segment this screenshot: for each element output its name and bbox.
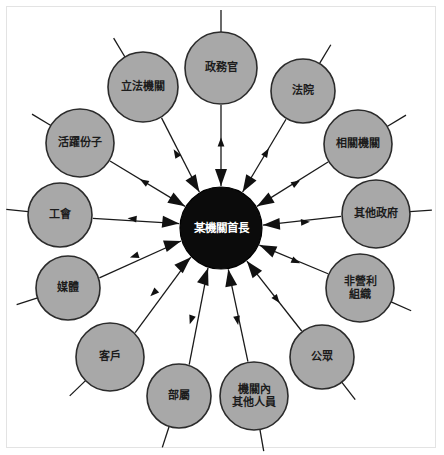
stakeholder-node-n8[interactable]: 部屬 [147, 364, 211, 428]
stakeholder-node-n12[interactable]: 活躍份子 [46, 109, 114, 177]
arrowhead-outward-n12 [140, 179, 149, 187]
outward-stub-n11 [6, 209, 28, 211]
outward-stub-n2 [319, 45, 330, 64]
stakeholder-node-n6[interactable]: 公眾 [290, 325, 354, 389]
node-label-n4: 其他政府 [354, 206, 398, 220]
node-label-n7: 其他人員 [232, 395, 276, 409]
outward-stub-n7 [260, 429, 264, 451]
arrowhead-inward-n1 [215, 169, 227, 186]
node-label-n6: 公眾 [311, 350, 333, 363]
node-label-n11: 工會 [49, 207, 72, 221]
arrowhead-outward-n2 [261, 148, 269, 157]
arrowhead-inward-n7 [225, 269, 237, 287]
center-node-label-line: 某機關首長 [193, 221, 250, 235]
node-label-n7: 機關內 [238, 382, 271, 396]
outward-stub-n12 [32, 114, 51, 125]
outward-stub-n5 [391, 302, 411, 311]
arrowhead-outward-n1 [218, 137, 225, 146]
outward-stub-n6 [342, 382, 356, 399]
arrowhead-inward-n2 [243, 174, 257, 192]
stakeholder-node-n2[interactable]: 法院 [271, 59, 335, 123]
node-label-n2: 法院 [292, 83, 314, 97]
arrowhead-inward-n13 [185, 174, 199, 192]
arrowhead-inward-n5 [259, 245, 277, 257]
arrowhead-inward-n4 [263, 218, 280, 230]
node-label-n12: 活躍份子 [58, 135, 102, 149]
node-label-n5: 組織 [349, 287, 371, 301]
arrowhead-outward-n3 [291, 181, 300, 189]
node-label-n8: 部屬 [168, 388, 190, 402]
stakeholder-node-n11[interactable]: 工會 [28, 183, 92, 247]
stakeholder-node-n13[interactable]: 立法機關 [108, 52, 178, 122]
stakeholder-node-n1[interactable]: 政務官 [185, 32, 257, 104]
center-node-group: 某機關首長 [180, 187, 262, 269]
arrowhead-outward-n11 [128, 216, 137, 223]
arrowhead-outward-n7 [233, 316, 240, 325]
stakeholder-node-n5[interactable]: 非營利組織 [326, 254, 394, 322]
node-label-n9: 客戶 [98, 349, 121, 363]
node-label-n1: 政務官 [205, 60, 238, 74]
outward-stub-n13 [114, 38, 125, 57]
outward-stub-n4 [410, 210, 432, 212]
arrowhead-outward-n9 [150, 288, 159, 297]
arrowhead-inward-n12 [167, 192, 185, 206]
arrowhead-outward-n10 [130, 252, 140, 258]
arrowhead-inward-n8 [197, 268, 208, 286]
node-label-n13: 立法機關 [121, 79, 165, 93]
outward-stub-n3 [387, 115, 406, 126]
stakeholder-node-n4[interactable]: 其他政府 [342, 180, 410, 248]
outward-stub-n10 [17, 298, 38, 305]
node-label-n3: 相關機關 [336, 136, 380, 150]
arrowhead-outward-n5 [291, 256, 301, 263]
arrowhead-outward-n8 [189, 315, 195, 325]
node-label-n5: 非營利 [344, 274, 377, 288]
arrowhead-inward-n3 [257, 192, 275, 206]
arrowhead-inward-n11 [162, 216, 180, 228]
stakeholder-node-n9[interactable]: 客戶 [76, 323, 144, 391]
stakeholder-node-n7[interactable]: 機關內其他人員 [220, 362, 288, 430]
diagram-canvas: 政務官法院相關機關其他政府非營利組織公眾機關內其他人員部屬客戶媒體工會活躍份子立… [0, 0, 444, 455]
node-label-n10: 媒體 [56, 280, 79, 294]
stakeholder-node-n3[interactable]: 相關機關 [324, 110, 392, 178]
arrowhead-inward-n10 [163, 241, 181, 252]
stakeholder-node-n10[interactable]: 媒體 [36, 256, 100, 320]
outward-stub-n8 [162, 426, 169, 447]
outward-stub-n9 [70, 381, 86, 396]
center-node-label: 某機關首長 [193, 221, 250, 235]
arrowhead-outward-n6 [271, 294, 279, 303]
arrowhead-inward-n6 [247, 261, 262, 278]
stakeholder-radial-diagram: 政務官法院相關機關其他政府非營利組織公眾機關內其他人員部屬客戶媒體工會活躍份子立… [0, 0, 444, 455]
arrowhead-inward-n9 [174, 257, 190, 273]
